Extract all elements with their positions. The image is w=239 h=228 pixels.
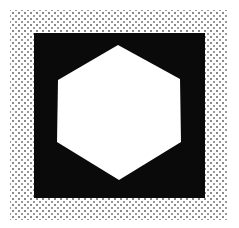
dot-pattern-figure [0, 0, 239, 228]
